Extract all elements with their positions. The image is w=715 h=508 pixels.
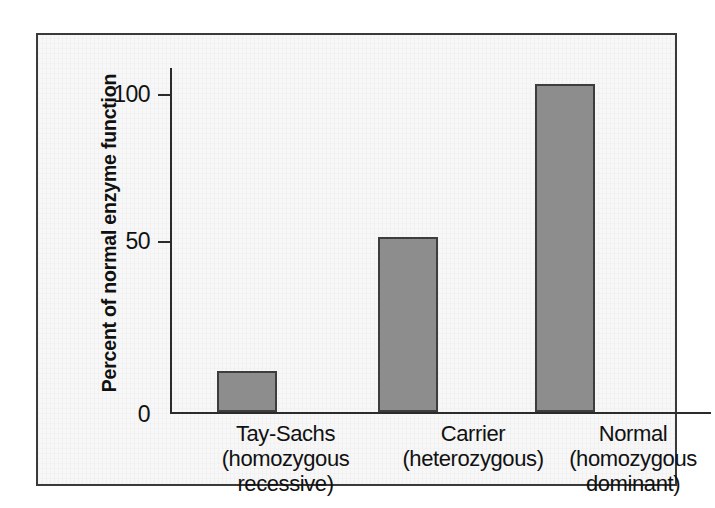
x-axis-line bbox=[170, 412, 711, 414]
y-tick-mark-100 bbox=[158, 94, 170, 96]
x-category-label-tay-sachs: Tay-Sachs (homozygous recessive) bbox=[178, 421, 393, 496]
bar-carrier bbox=[378, 237, 438, 412]
figure-frame: Percent of normal enzyme function 100 50… bbox=[36, 33, 677, 486]
x-category-label-normal: Normal (homozygous dominant) bbox=[538, 421, 715, 496]
bar-normal bbox=[535, 84, 595, 412]
y-tick-label-100: 100 bbox=[78, 81, 150, 108]
y-tick-label-0: 0 bbox=[78, 401, 150, 428]
y-tick-label-50: 50 bbox=[78, 228, 150, 255]
y-axis-line bbox=[170, 68, 172, 414]
bar-tay-sachs bbox=[217, 371, 277, 412]
y-tick-mark-50 bbox=[158, 241, 170, 243]
